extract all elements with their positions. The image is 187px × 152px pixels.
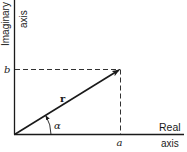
angle-alpha-arc xyxy=(46,116,51,135)
vector-r-label: r xyxy=(60,93,66,104)
imaginary-axis-label: Imaginary xyxy=(0,2,11,46)
angle-alpha-label: α xyxy=(54,120,61,131)
imaginary-axis-label-axis: axis xyxy=(18,10,29,28)
vector-r-arrow xyxy=(15,70,120,135)
real-axis-label-axis: axis xyxy=(161,138,179,149)
b-label: b xyxy=(4,64,10,75)
real-axis-label: Real xyxy=(159,121,181,133)
a-label: a xyxy=(117,137,123,148)
complex-plane-diagram: Imaginary axis Real axis b a r α xyxy=(0,0,187,152)
